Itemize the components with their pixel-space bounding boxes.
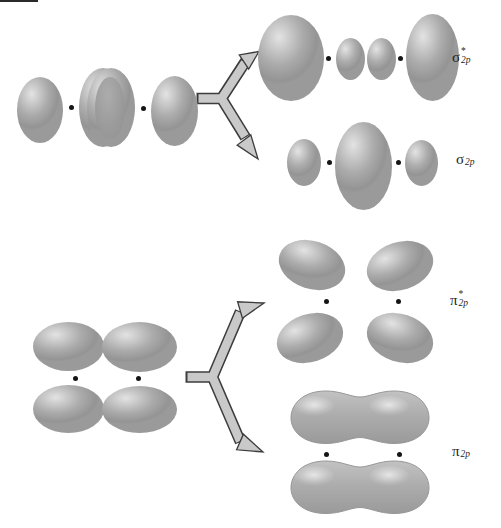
nucleus-dot <box>398 56 403 61</box>
nucleus-dot <box>324 452 329 457</box>
nucleus-dot <box>396 160 401 165</box>
nucleus-dot <box>327 160 332 165</box>
branch-arrow-pi <box>186 302 265 452</box>
sigma-star-small-lobe <box>336 38 365 80</box>
sigma-large-center-lobe <box>335 122 392 210</box>
greek-pi: π <box>452 444 460 459</box>
nucleus-dot <box>136 376 141 381</box>
nucleus-dot <box>69 105 74 110</box>
nucleus-dot <box>326 56 331 61</box>
peanut-highlight <box>369 466 409 486</box>
nucleus-dot <box>141 106 146 111</box>
nucleus-dot <box>396 299 401 304</box>
greek-sigma: σ <box>452 50 460 65</box>
p-orbital-lobe <box>151 76 198 146</box>
p-orbital-lobe <box>33 322 104 371</box>
orbital-overlap-region <box>95 77 125 139</box>
p-orbital-lobe <box>17 77 63 143</box>
mo-diagram-canvas: σ*2p σ2p π*2p π2p <box>0 0 501 528</box>
nucleus-dot <box>73 376 78 381</box>
label-sigma-2p: σ2p <box>456 152 475 168</box>
peanut-highlight <box>294 396 334 416</box>
sigma-small-lobe <box>287 139 321 186</box>
sigma-small-lobe <box>405 140 438 186</box>
arrowhead-to-pi-star <box>238 302 264 318</box>
nucleus-dot <box>324 299 329 304</box>
peanut-highlight <box>369 396 409 416</box>
branch-arrow-sigma <box>197 52 260 160</box>
label-pi-2p: π2p <box>452 444 470 460</box>
peanut-highlight <box>294 466 334 486</box>
label-sigma-star-2p: σ*2p <box>452 50 471 66</box>
sigma-star-small-lobe <box>367 38 396 80</box>
nucleus-dot <box>397 452 402 457</box>
label-pi-star-2p: π*2p <box>450 293 468 309</box>
greek-sigma: σ <box>456 152 464 167</box>
greek-pi: π <box>450 293 458 308</box>
p-orbital-lobe <box>102 386 177 433</box>
p-orbital-lobe <box>33 385 104 433</box>
pi-bonding-orbital-shape <box>291 391 429 514</box>
p-orbital-lobe <box>102 322 177 372</box>
sigma-star-large-lobe <box>258 15 324 101</box>
